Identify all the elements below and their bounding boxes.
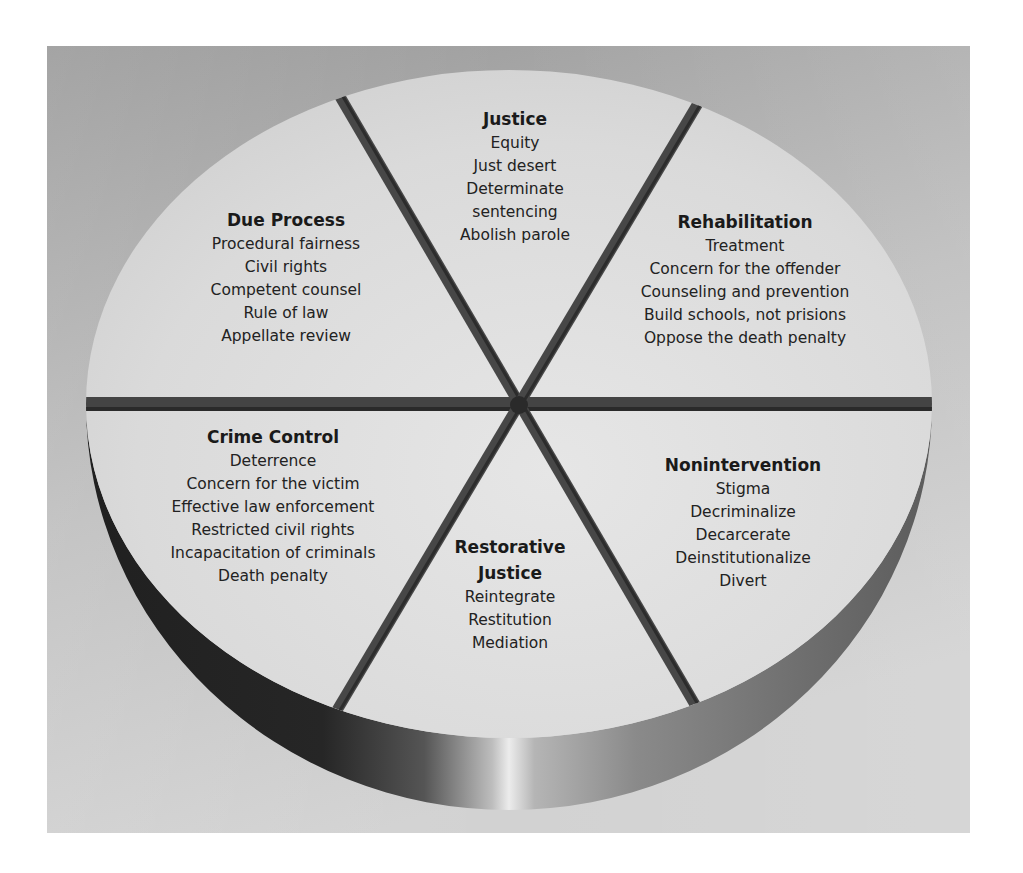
segment-item: sentencing bbox=[460, 201, 570, 224]
segment-item: Death penalty bbox=[171, 565, 376, 588]
segment-items: Deterrence Concern for the victim Effect… bbox=[171, 450, 376, 588]
segment-item: Just desert bbox=[460, 155, 570, 178]
segment-title: Nonintervention bbox=[665, 452, 821, 478]
segment-crime-control: Crime Control Deterrence Concern for the… bbox=[171, 424, 376, 588]
segment-title: Justice bbox=[460, 106, 570, 132]
segment-item: Build schools, not prisions bbox=[641, 304, 850, 327]
segment-item: Decarcerate bbox=[665, 524, 821, 547]
segment-title: Due Process bbox=[211, 207, 362, 233]
segment-item: Abolish parole bbox=[460, 224, 570, 247]
segment-item: Reintegrate bbox=[455, 586, 566, 609]
wheel-hub bbox=[510, 396, 528, 414]
segment-item: Civil rights bbox=[211, 256, 362, 279]
segment-item: Concern for the offender bbox=[641, 258, 850, 281]
segment-item: Oppose the death penalty bbox=[641, 327, 850, 350]
segment-item: Rule of law bbox=[211, 302, 362, 325]
segment-item: Counseling and prevention bbox=[641, 281, 850, 304]
segment-item: Incapacitation of criminals bbox=[171, 542, 376, 565]
segment-nonintervention: Nonintervention Stigma Decriminalize Dec… bbox=[665, 452, 821, 593]
segment-items: Equity Just desert Determinate sentencin… bbox=[460, 132, 570, 247]
segment-item: Divert bbox=[665, 570, 821, 593]
segment-item: Deterrence bbox=[171, 450, 376, 473]
segment-item: Equity bbox=[460, 132, 570, 155]
segment-item: Stigma bbox=[665, 478, 821, 501]
segment-item: Restitution bbox=[455, 609, 566, 632]
segment-justice: Justice Equity Just desert Determinate s… bbox=[460, 106, 570, 247]
perspectives-wheel-diagram: Justice Equity Just desert Determinate s… bbox=[0, 0, 1023, 873]
segment-item: Mediation bbox=[455, 632, 566, 655]
segment-item: Concern for the victim bbox=[171, 473, 376, 496]
segment-items: Treatment Concern for the offender Couns… bbox=[641, 235, 850, 350]
segment-restorative-justice: Restorative Justice Reintegrate Restitut… bbox=[455, 534, 566, 655]
segment-item: Procedural fairness bbox=[211, 233, 362, 256]
segment-items: Stigma Decriminalize Decarcerate Deinsti… bbox=[665, 478, 821, 593]
segment-rehabilitation: Rehabilitation Treatment Concern for the… bbox=[641, 209, 850, 350]
segment-item: Decriminalize bbox=[665, 501, 821, 524]
segment-title: Rehabilitation bbox=[641, 209, 850, 235]
segment-items: Procedural fairness Civil rights Compete… bbox=[211, 233, 362, 348]
segment-item: Deinstitutionalize bbox=[665, 547, 821, 570]
segment-item: Restricted civil rights bbox=[171, 519, 376, 542]
segment-items: Reintegrate Restitution Mediation bbox=[455, 586, 566, 655]
segment-item: Treatment bbox=[641, 235, 850, 258]
segment-item: Competent counsel bbox=[211, 279, 362, 302]
segment-item: Effective law enforcement bbox=[171, 496, 376, 519]
segment-title-line: Justice bbox=[455, 560, 566, 586]
segment-title-line: Restorative bbox=[455, 534, 566, 560]
segment-due-process: Due Process Procedural fairness Civil ri… bbox=[211, 207, 362, 348]
segment-item: Determinate bbox=[460, 178, 570, 201]
segment-item: Appellate review bbox=[211, 325, 362, 348]
segment-title: Crime Control bbox=[171, 424, 376, 450]
